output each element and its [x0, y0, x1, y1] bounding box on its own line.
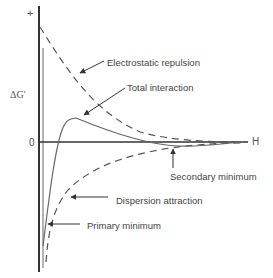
y-plus-label: +: [27, 8, 33, 19]
total-arrow: [84, 88, 125, 115]
total-interaction-label: Total interaction: [127, 83, 194, 93]
secondary-minimum-label: Secondary minimum: [170, 172, 257, 182]
dlvo-diagram: [0, 0, 273, 278]
electrostatic-repulsion-label: Electrostatic repulsion: [107, 58, 200, 68]
dispersion-attraction-label: Dispersion attraction: [116, 196, 203, 206]
x-axis-label: H: [252, 137, 259, 147]
primary-minimum-label: Primary minimum: [87, 221, 161, 231]
y-axis-label: ΔG': [10, 90, 25, 100]
y-zero-label: 0: [29, 138, 35, 148]
electrostatic-arrow: [80, 61, 104, 73]
